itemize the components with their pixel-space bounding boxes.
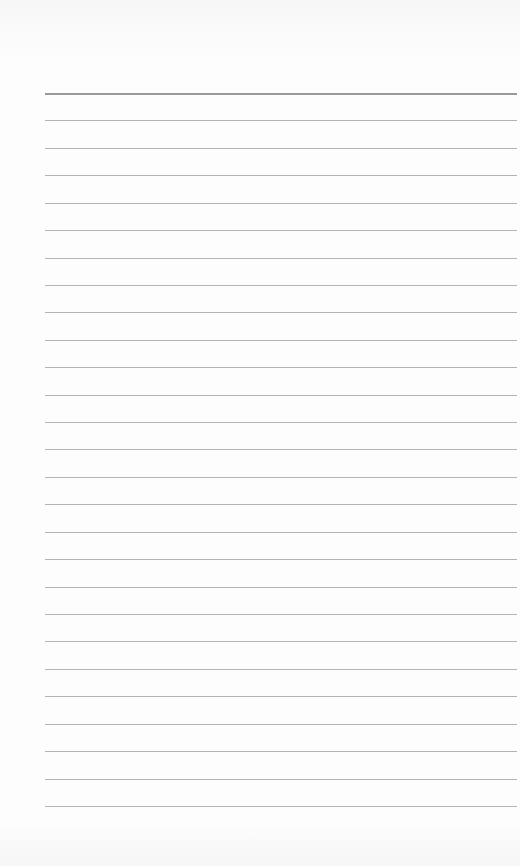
ruled-line [45, 395, 517, 396]
ruled-line [45, 367, 517, 368]
ruled-line [45, 559, 517, 560]
ruled-line [45, 669, 517, 670]
ruled-line [45, 120, 517, 121]
header-rule-line [45, 93, 517, 95]
ruled-line [45, 148, 517, 149]
ruled-line [45, 779, 517, 780]
ruled-line [45, 751, 517, 752]
ruled-line [45, 203, 517, 204]
ruled-line [45, 422, 517, 423]
ruled-line [45, 504, 517, 505]
ruled-line [45, 532, 517, 533]
ruled-line [45, 285, 517, 286]
ruled-line [45, 175, 517, 176]
ruled-line [45, 587, 517, 588]
ruled-line [45, 312, 517, 313]
ruled-line [45, 258, 517, 259]
ruled-line [45, 230, 517, 231]
ruled-line [45, 340, 517, 341]
ruled-line [45, 449, 517, 450]
ruled-line [45, 806, 517, 807]
ruled-line [45, 641, 517, 642]
ruled-line [45, 614, 517, 615]
ruled-line [45, 696, 517, 697]
lined-paper [0, 0, 520, 866]
ruled-line [45, 724, 517, 725]
ruled-line [45, 477, 517, 478]
